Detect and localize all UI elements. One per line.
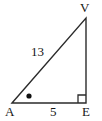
triangle-graphic xyxy=(0,0,102,121)
triangle-outline xyxy=(12,18,86,103)
triangle-diagram: V A E 13 5 xyxy=(0,0,102,121)
vertex-label-a: A xyxy=(5,105,14,118)
angle-dot-marker-icon xyxy=(26,93,31,98)
side-label-hypotenuse: 13 xyxy=(31,45,44,58)
side-label-base: 5 xyxy=(50,105,57,118)
vertex-label-e: E xyxy=(82,105,90,118)
right-angle-marker-icon xyxy=(78,95,86,103)
vertex-label-v: V xyxy=(80,1,89,14)
